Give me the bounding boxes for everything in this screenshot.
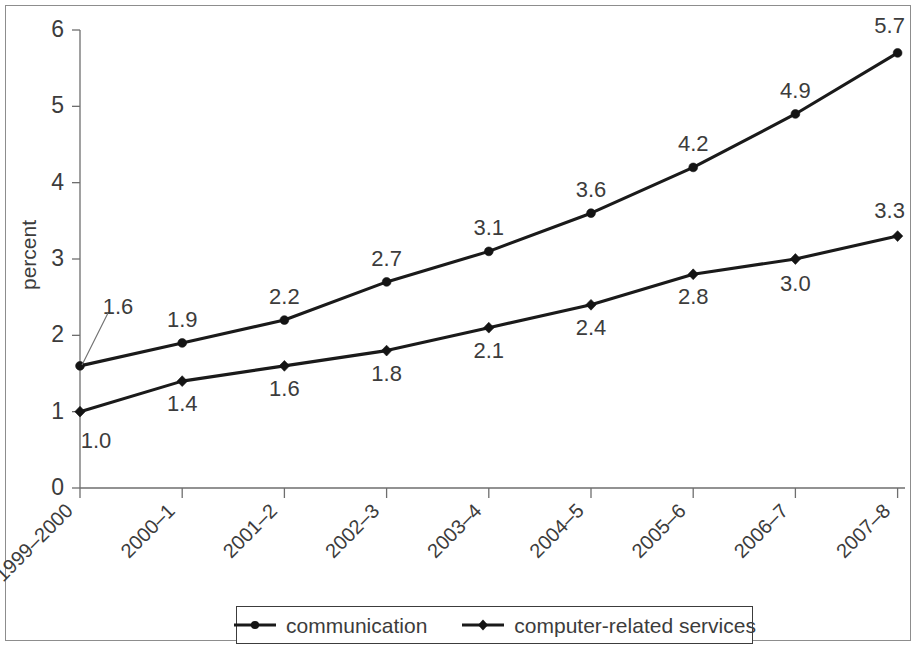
x-tick-label: 2000–1 bbox=[116, 499, 179, 562]
data-value-label: 4.2 bbox=[678, 131, 709, 156]
y-axis-ticks bbox=[72, 30, 80, 488]
x-tick-label: 1999–2000 bbox=[0, 499, 77, 585]
data-point-marker bbox=[280, 316, 289, 325]
data-value-label: 1.4 bbox=[167, 391, 198, 416]
chart-figure: 0123456 1999–20002000–12001–22002–32003–… bbox=[0, 0, 917, 659]
data-point-marker bbox=[790, 254, 800, 265]
x-tick-label: 2007–8 bbox=[832, 499, 895, 562]
data-point-marker bbox=[382, 278, 391, 287]
y-tick-label: 2 bbox=[51, 321, 64, 347]
x-tick-label: 2005–6 bbox=[627, 499, 690, 562]
y-tick-label: 1 bbox=[51, 398, 64, 424]
data-point-marker bbox=[484, 247, 493, 256]
diamond-marker-icon bbox=[461, 617, 505, 633]
data-point-marker bbox=[381, 345, 391, 356]
x-tick-label: 2004–5 bbox=[525, 499, 588, 562]
y-tick-label: 5 bbox=[51, 92, 64, 118]
data-point-marker bbox=[484, 322, 494, 333]
data-value-label: 3.0 bbox=[780, 271, 811, 296]
data-point-marker bbox=[689, 163, 698, 172]
series-value-labels: 1.61.92.22.73.13.64.24.95.71.01.41.61.82… bbox=[81, 13, 905, 453]
data-point-marker bbox=[893, 49, 902, 58]
x-axis-tick-labels: 1999–20002000–12001–22002–32003–42004–52… bbox=[0, 499, 894, 585]
data-point-marker bbox=[177, 376, 187, 387]
x-tick-label: 2006–7 bbox=[729, 499, 792, 562]
data-value-label: 2.7 bbox=[371, 246, 402, 271]
y-tick-label: 0 bbox=[51, 474, 64, 500]
data-value-label: 5.7 bbox=[874, 13, 905, 38]
data-value-label: 4.9 bbox=[780, 78, 811, 103]
chart-legend: communication computer-related services bbox=[236, 606, 753, 644]
legend-entry-computer-related-services[interactable]: computer-related services bbox=[461, 615, 756, 636]
data-point-marker bbox=[892, 231, 902, 242]
x-tick-label: 2001–2 bbox=[218, 499, 281, 562]
x-tick-label: 2003–4 bbox=[423, 499, 486, 562]
legend-label-computer-related-services: computer-related services bbox=[514, 615, 756, 636]
y-tick-label: 6 bbox=[51, 16, 64, 42]
legend-entry-communication[interactable]: communication bbox=[233, 615, 427, 636]
data-point-marker bbox=[586, 299, 596, 310]
data-point-marker bbox=[791, 110, 800, 119]
y-tick-label: 4 bbox=[51, 169, 64, 195]
data-value-label: 1.6 bbox=[269, 376, 300, 401]
data-point-marker bbox=[587, 209, 596, 218]
line-chart-plot: 0123456 1999–20002000–12001–22002–32003–… bbox=[0, 0, 917, 659]
data-value-label: 3.1 bbox=[474, 215, 505, 240]
legend-label-communication: communication bbox=[286, 615, 427, 636]
data-point-marker bbox=[178, 339, 187, 348]
data-value-label: 1.9 bbox=[167, 307, 198, 332]
data-value-label: 2.8 bbox=[678, 284, 709, 309]
data-point-marker bbox=[75, 406, 85, 417]
data-point-marker bbox=[688, 269, 698, 280]
data-point-marker bbox=[279, 360, 289, 371]
data-value-label: 2.1 bbox=[474, 338, 505, 363]
data-value-label: 3.6 bbox=[576, 177, 607, 202]
x-tick-label: 2002–3 bbox=[321, 499, 384, 562]
y-axis-title: percent bbox=[17, 220, 40, 290]
y-tick-label: 3 bbox=[51, 245, 64, 271]
y-axis-tick-labels: 0123456 bbox=[51, 16, 64, 500]
data-value-label: 3.3 bbox=[874, 198, 905, 223]
annotation-leader-line bbox=[82, 313, 108, 365]
data-value-label: 2.4 bbox=[576, 315, 607, 340]
circle-marker-icon bbox=[233, 617, 277, 633]
data-value-label: 1.8 bbox=[371, 361, 402, 386]
x-axis-ticks bbox=[80, 488, 898, 498]
data-value-label: 2.2 bbox=[269, 284, 300, 309]
data-value-label: 1.0 bbox=[81, 428, 112, 453]
series-line bbox=[80, 53, 898, 366]
